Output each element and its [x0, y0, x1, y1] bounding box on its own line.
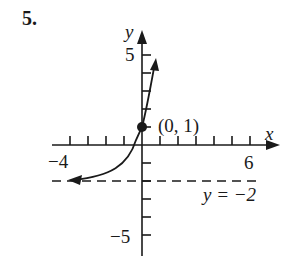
point-marker [137, 122, 147, 132]
graph-figure: 5. y x 5 −5 −4 6 (0, 1) [0, 0, 288, 263]
x-axis-label: x [264, 123, 274, 144]
y-axis-arrow-icon [137, 30, 147, 44]
y-axis-label: y [123, 21, 134, 42]
curve-arrow-left-icon [68, 175, 82, 185]
problem-number: 5. [22, 7, 37, 29]
curve-arrow-up-icon [150, 58, 159, 71]
asymptote-label: y = −2 [201, 184, 257, 205]
y-axis [142, 40, 151, 256]
x-tick-label-6: 6 [244, 152, 254, 173]
y-tick-label-5: 5 [125, 44, 135, 65]
x-axis [52, 136, 272, 145]
point-label: (0, 1) [158, 115, 199, 137]
x-tick-label-neg4: −4 [48, 151, 69, 172]
y-tick-label-neg5: −5 [110, 226, 130, 247]
coordinate-plane: 5. y x 5 −5 −4 6 (0, 1) [0, 0, 288, 263]
